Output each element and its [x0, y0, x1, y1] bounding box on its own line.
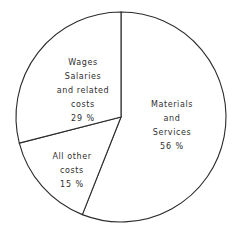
pie-label-line: Salaries [23, 70, 143, 84]
pie-label-line: costs [22, 164, 122, 178]
pie-label-line: and [132, 112, 212, 126]
pie-label-line: Materials [132, 98, 212, 112]
pie-label-percent: 56 % [132, 140, 212, 154]
pie-label-line: All other [22, 150, 122, 164]
pie-label-line: Wages [23, 56, 143, 70]
pie-label-materials-and-services: Materials and Services 56 % [132, 98, 212, 154]
pie-label-percent: 15 % [22, 178, 122, 192]
pie-label-line: Services [132, 126, 212, 140]
pie-label-percent: 29 % [23, 112, 143, 126]
pie-label-wages-salaries: Wages Salaries and related costs 29 % [23, 56, 143, 126]
pie-chart: Wages Salaries and related costs 29 % Ma… [0, 0, 241, 237]
pie-label-line: costs [23, 98, 143, 112]
pie-label-line: and related [23, 84, 143, 98]
pie-label-all-other-costs: All other costs 15 % [22, 150, 122, 192]
